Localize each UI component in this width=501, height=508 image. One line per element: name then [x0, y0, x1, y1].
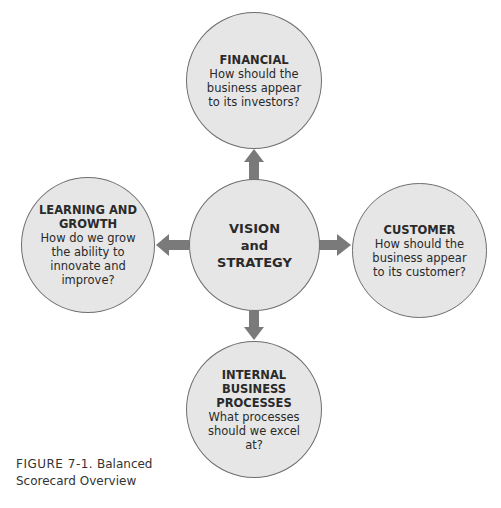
learning-growth-question: How do we grow the ability to innovate a…: [40, 231, 135, 287]
figure-label: FIGURE 7-1.: [16, 457, 93, 471]
balanced-scorecard-diagram: FINANCIAL How should the business appear…: [0, 0, 501, 508]
learning-growth-circle: LEARNING AND GROWTH How do we grow the a…: [21, 177, 155, 313]
arrow-up-icon: [244, 149, 264, 180]
financial-circle: FINANCIAL How should the business appear…: [186, 12, 322, 149]
figure-caption: FIGURE 7-1. Balanced Scorecard Overview: [16, 456, 152, 490]
arrow-down-icon: [244, 311, 264, 340]
customer-title: CUSTOMER: [384, 223, 456, 237]
internal-processes-title: INTERNAL BUSINESS PROCESSES: [216, 368, 292, 410]
arrow-left-icon: [156, 234, 189, 256]
financial-question: How should the business appear to its in…: [207, 67, 301, 109]
internal-processes-circle: INTERNAL BUSINESS PROCESSES What process…: [186, 341, 322, 478]
caption-text-line2: Scorecard Overview: [16, 473, 152, 490]
customer-question: How should the business appear to its cu…: [372, 237, 466, 279]
financial-title: FINANCIAL: [219, 53, 288, 67]
internal-processes-question: What processes should we excel at?: [208, 410, 300, 452]
arrow-right-icon: [319, 234, 351, 256]
customer-circle: CUSTOMER How should the business appear …: [352, 183, 487, 318]
learning-growth-title: LEARNING AND GROWTH: [39, 203, 137, 231]
vision-strategy-circle: VISION and STRATEGY: [189, 179, 320, 311]
vision-strategy-title: VISION and STRATEGY: [217, 220, 292, 271]
caption-text-line1: Balanced: [97, 457, 152, 471]
